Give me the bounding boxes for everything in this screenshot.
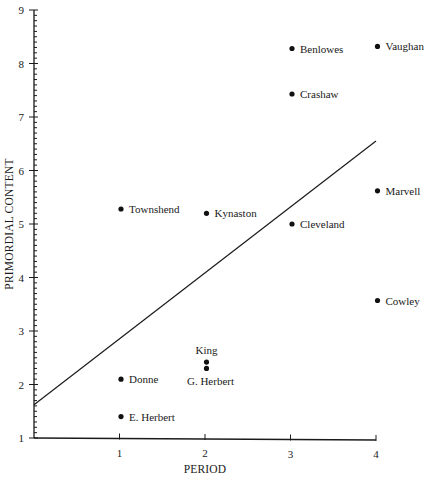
y-tick-label: 2 [19,379,25,391]
point-label: Benlowes [300,43,343,55]
point-label: Kynaston [215,207,258,219]
point-label: Crashaw [300,88,339,100]
point-label: Donne [129,373,158,385]
axes: 1234567891234 [19,4,380,460]
point-marker-icon [204,366,209,371]
data-point: E. Herbert [118,411,174,423]
point-marker-icon [289,46,294,51]
data-points: BenlowesVaughanCrashawMarvellTownshendKy… [118,40,424,422]
point-marker-icon [289,221,294,226]
point-label: Marvell [386,185,421,197]
data-point: Cowley [375,295,420,307]
point-marker-icon [204,211,209,216]
data-point: Crashaw [289,88,338,100]
data-point: Vaughan [375,40,425,52]
data-point: Townshend [118,203,180,215]
data-point: Donne [118,373,158,385]
data-point: Benlowes [289,43,343,55]
point-marker-icon [118,414,123,419]
point-label: E. Herbert [129,411,175,423]
y-tick-label: 1 [19,432,25,444]
x-tick-label: 3 [288,448,294,460]
point-label: Vaughan [386,40,425,52]
y-tick-label: 6 [19,165,25,177]
y-axis-label: PRIMORDIAL CONTENT [3,158,15,289]
data-point: Kynaston [204,207,257,219]
data-point: King [196,344,219,365]
data-point: G. Herbert [187,366,234,388]
data-point: Marvell [375,185,420,197]
y-tick-label: 7 [19,111,25,123]
point-label: Cowley [386,295,421,307]
point-marker-icon [375,298,380,303]
regression-line [34,141,376,405]
y-tick-label: 3 [19,325,25,337]
point-marker-icon [118,377,123,382]
scatter-chart: 1234567891234 BenlowesVaughanCrashawMarv… [0,0,429,481]
data-point: Cleveland [289,218,345,230]
y-tick-label: 9 [19,4,25,16]
regression-line-path [34,141,376,405]
y-tick-label: 8 [19,58,25,70]
x-tick-label: 4 [373,448,379,460]
point-marker-icon [375,44,380,49]
point-label: G. Herbert [187,375,234,387]
point-marker-icon [118,206,123,211]
x-tick-label: 2 [202,447,208,459]
y-tick-label: 4 [19,272,25,284]
chart-canvas: 1234567891234 BenlowesVaughanCrashawMarv… [0,0,429,481]
point-label: Townshend [129,203,180,215]
point-label: King [196,344,219,356]
point-marker-icon [204,359,209,364]
y-tick-label: 5 [19,218,25,230]
point-marker-icon [289,91,294,96]
point-marker-icon [375,188,380,193]
point-label: Cleveland [300,218,345,230]
x-axis-label: PERIOD [184,463,227,475]
x-tick-label: 1 [117,447,123,459]
